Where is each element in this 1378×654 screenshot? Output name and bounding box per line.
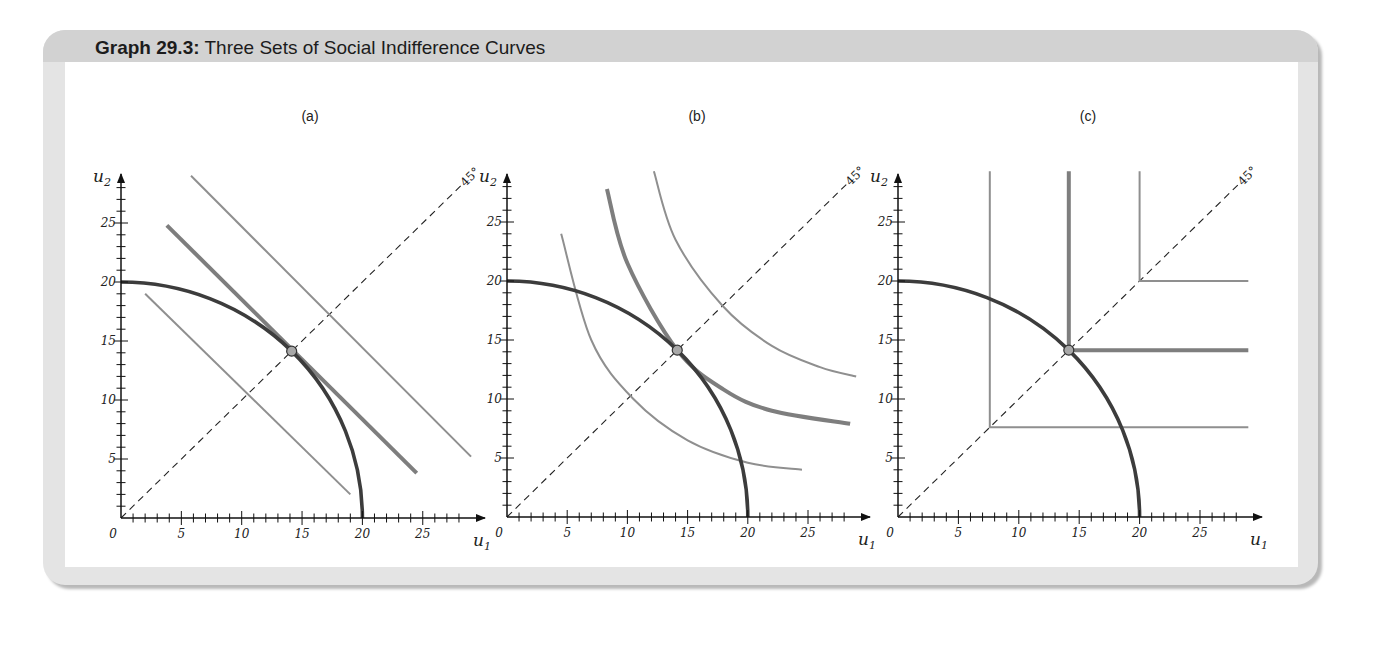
optimal-point-marker	[672, 345, 682, 355]
x-axis-label: u1	[858, 529, 876, 552]
y-tick-label: 15	[487, 333, 502, 347]
y-tick-label: 15	[878, 333, 893, 347]
indifference-curve	[654, 171, 856, 376]
x-tick-label: 10	[620, 526, 636, 540]
x-tick-label: 25	[1191, 526, 1207, 540]
panel-label: (a)	[301, 108, 318, 124]
y-tick-label: 20	[486, 274, 503, 288]
y-axis-label: u2	[870, 166, 888, 189]
y-tick-label: 10	[487, 392, 503, 406]
x-tick-label: 0	[109, 527, 117, 541]
x-tick-label: 10	[234, 527, 250, 541]
x-tick-label: 5	[955, 526, 963, 540]
y-tick-label: 25	[486, 215, 502, 229]
x-axis-label: u1	[473, 530, 491, 553]
panel-c-chart: (c)45°0510152025510152025u1u2	[870, 108, 1268, 552]
optimal-indifference-curve	[607, 189, 850, 424]
x-axis-label: u1	[1250, 529, 1268, 552]
x-tick-label: 10	[1011, 526, 1027, 540]
y-axis-label: u2	[93, 166, 111, 189]
x-tick-label: 0	[886, 526, 894, 540]
y-tick-label: 10	[878, 392, 894, 406]
x-tick-label: 25	[799, 526, 815, 540]
y-tick-label: 15	[101, 334, 116, 348]
y-tick-label: 5	[494, 451, 502, 465]
y-tick-label: 25	[100, 216, 116, 230]
y-tick-label: 25	[877, 215, 893, 229]
y-tick-label: 5	[108, 452, 116, 466]
x-tick-label: 15	[680, 526, 695, 540]
x-tick-label: 15	[1072, 526, 1087, 540]
x-tick-label: 15	[294, 527, 309, 541]
charts-canvas: (a)45°0510152025510152025u1u2 (b)45°0510…	[0, 0, 1378, 654]
y-tick-label: 5	[885, 451, 893, 465]
x-tick-label: 5	[178, 527, 186, 541]
x-tick-label: 25	[414, 527, 430, 541]
x-tick-label: 20	[1131, 526, 1148, 540]
indifference-curve	[191, 176, 471, 457]
y-axis-label: u2	[479, 166, 497, 189]
diagonal-45-label: 45°	[843, 163, 868, 188]
y-tick-label: 10	[101, 393, 117, 407]
x-tick-label: 5	[563, 526, 571, 540]
y-tick-label: 20	[100, 275, 117, 289]
x-tick-label: 20	[354, 527, 371, 541]
y-tick-label: 20	[877, 274, 894, 288]
panel-label: (b)	[688, 108, 705, 124]
x-tick-label: 20	[739, 526, 756, 540]
diagonal-45-label: 45°	[1235, 163, 1260, 188]
panel-a-chart: (a)45°0510152025510152025u1u2	[93, 108, 491, 553]
optimal-point-marker	[1064, 345, 1074, 355]
x-tick-label: 0	[495, 526, 503, 540]
panel-label: (c)	[1080, 108, 1096, 124]
optimal-point-marker	[287, 346, 297, 356]
panel-b-chart: (b)45°0510152025510152025u1u2	[479, 108, 876, 552]
